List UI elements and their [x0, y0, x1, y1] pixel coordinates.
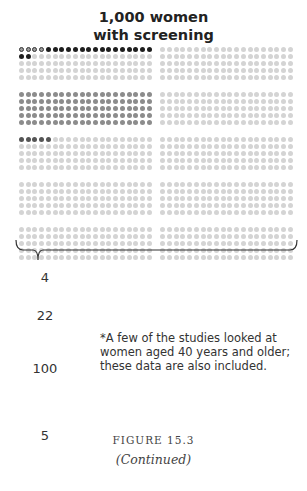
- person-dot: [133, 165, 138, 170]
- person-dot: [26, 196, 31, 201]
- person-dot: [80, 151, 85, 156]
- person-dot: [274, 182, 279, 187]
- person-dot: [214, 182, 219, 187]
- person-dot: [39, 165, 44, 170]
- person-dot: [207, 54, 212, 59]
- person-dot: [174, 113, 179, 118]
- person-dot: [93, 203, 98, 208]
- person-dot: [254, 75, 259, 80]
- person-dot: [100, 151, 105, 156]
- person-dot: [73, 137, 78, 142]
- person-dot: [281, 106, 286, 111]
- person-dot: [227, 47, 232, 52]
- person-dot: [73, 203, 78, 208]
- person-dot: [274, 92, 279, 97]
- person-dot: [32, 113, 37, 118]
- person-dot: [127, 203, 132, 208]
- person-dot: [100, 137, 105, 142]
- person-dot: [261, 47, 266, 52]
- person-dot: [66, 210, 71, 215]
- person-dot: [254, 61, 259, 66]
- person-dot: [261, 203, 266, 208]
- person-dot: [221, 54, 226, 59]
- person-dot: [133, 92, 138, 97]
- person-dot: [227, 54, 232, 59]
- person-dot: [201, 137, 206, 142]
- person-dot: [261, 68, 266, 73]
- person-dot: [32, 182, 37, 187]
- person-dot: [93, 227, 98, 232]
- person-dot: [100, 196, 105, 201]
- person-dot: [39, 68, 44, 73]
- person-dot: [234, 227, 239, 232]
- person-dot: [26, 106, 31, 111]
- count-label-100: 100: [15, 361, 75, 376]
- person-dot: [167, 196, 172, 201]
- person-dot: [113, 99, 118, 104]
- person-dot: [194, 106, 199, 111]
- person-dot: [53, 182, 58, 187]
- person-dot: [207, 106, 212, 111]
- person-dot: [167, 227, 172, 232]
- person-dot: [274, 137, 279, 142]
- person-dot: [133, 210, 138, 215]
- person-dot: [100, 182, 105, 187]
- person-dot: [214, 165, 219, 170]
- person-dot: [281, 189, 286, 194]
- person-dot: [261, 106, 266, 111]
- person-dot: [261, 92, 266, 97]
- person-dot: [73, 106, 78, 111]
- person-dot: [19, 210, 24, 215]
- person-dot: [66, 120, 71, 125]
- person-dot: [86, 137, 91, 142]
- person-dot: [113, 106, 118, 111]
- person-dot: [80, 158, 85, 163]
- person-dot: [254, 182, 259, 187]
- person-dot: [174, 54, 179, 59]
- person-dot: [113, 54, 118, 59]
- person-dot: [53, 75, 58, 80]
- person-dot: [53, 68, 58, 73]
- person-dot: [73, 54, 78, 59]
- person-dot: [120, 120, 125, 125]
- person-dot: [207, 151, 212, 156]
- person-dot: [221, 106, 226, 111]
- person-dot: [194, 182, 199, 187]
- person-dot: [180, 61, 185, 66]
- person-dot: [160, 61, 165, 66]
- person-dot: [66, 165, 71, 170]
- person-dot: [207, 203, 212, 208]
- person-dot: [147, 137, 152, 142]
- person-dot: [26, 47, 31, 52]
- person-dot: [100, 113, 105, 118]
- person-dot: [254, 120, 259, 125]
- person-dot: [248, 158, 253, 163]
- person-dot: [281, 68, 286, 73]
- person-dot: [120, 165, 125, 170]
- person-dot: [214, 54, 219, 59]
- person-dot: [140, 182, 145, 187]
- person-dot: [19, 54, 24, 59]
- person-dot: [288, 144, 293, 149]
- person-dot: [19, 203, 24, 208]
- person-dot: [66, 182, 71, 187]
- person-dot: [19, 47, 24, 52]
- person-dot: [234, 182, 239, 187]
- person-dot: [100, 75, 105, 80]
- person-dot: [26, 92, 31, 97]
- person-dot: [140, 92, 145, 97]
- person-dot: [174, 196, 179, 201]
- person-dot: [66, 203, 71, 208]
- person-dot: [26, 113, 31, 118]
- person-dot: [234, 137, 239, 142]
- person-dot: [93, 189, 98, 194]
- person-dot: [248, 182, 253, 187]
- person-dot: [86, 144, 91, 149]
- person-dot: [46, 61, 51, 66]
- person-dot: [221, 144, 226, 149]
- person-dot: [160, 158, 165, 163]
- person-dot: [19, 92, 24, 97]
- person-dot: [26, 227, 31, 232]
- person-dot: [261, 75, 266, 80]
- person-dot: [106, 189, 111, 194]
